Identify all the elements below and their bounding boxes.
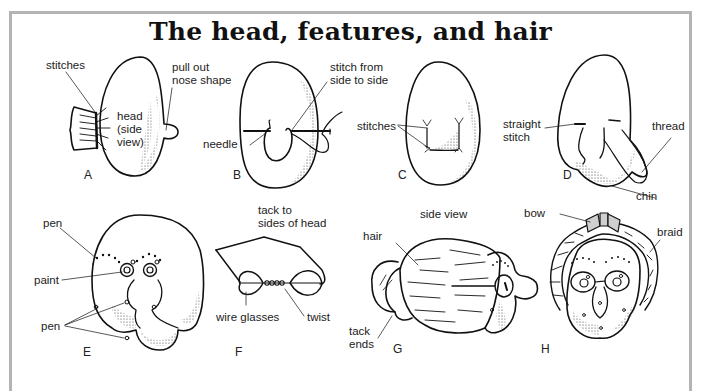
label-c-stitches: stitches [357, 120, 396, 133]
label-h-bow: bow [524, 207, 545, 220]
panel-e-drawing [60, 215, 204, 350]
label-e-pen-bottom: pen [41, 320, 60, 333]
panel-letter-f: F [235, 345, 242, 359]
panel-letter-c: C [398, 168, 407, 182]
panel-g-drawing [372, 239, 538, 338]
panel-f-drawing [216, 237, 325, 316]
label-g-side-view: side view [420, 208, 467, 221]
label-d-chin: chin [636, 190, 657, 203]
panel-letter-h: H [541, 342, 550, 356]
panel-h-drawing [550, 213, 660, 338]
label-a-head: head (side view) [117, 110, 144, 149]
label-d-straight-stitch: straight stitch [503, 118, 541, 144]
label-e-paint: paint [34, 274, 59, 287]
panel-c-drawing [398, 62, 480, 185]
label-a-nose: pull out nose shape [172, 61, 231, 87]
label-f-twist: twist [307, 311, 330, 324]
panel-letter-g: G [393, 342, 402, 356]
panel-letter-d: D [563, 168, 572, 182]
label-d-thread: thread [652, 120, 685, 133]
label-f-tack: tack to sides of head [258, 204, 326, 230]
label-e-pen-top: pen [43, 217, 62, 230]
label-g-hair: hair [363, 230, 382, 243]
label-b-stitch: stitch from side to side [330, 61, 388, 87]
label-a-stitches: stitches [46, 59, 85, 72]
panel-b-drawing [240, 62, 342, 188]
panel-letter-a: A [84, 168, 92, 182]
label-f-wire-glasses: wire glasses [216, 311, 279, 324]
panel-letter-b: B [233, 168, 241, 182]
panel-letter-e: E [83, 345, 91, 359]
label-h-braid: braid [657, 226, 683, 239]
label-g-tack-ends: tack ends [349, 325, 374, 351]
label-b-needle: needle [203, 138, 238, 151]
